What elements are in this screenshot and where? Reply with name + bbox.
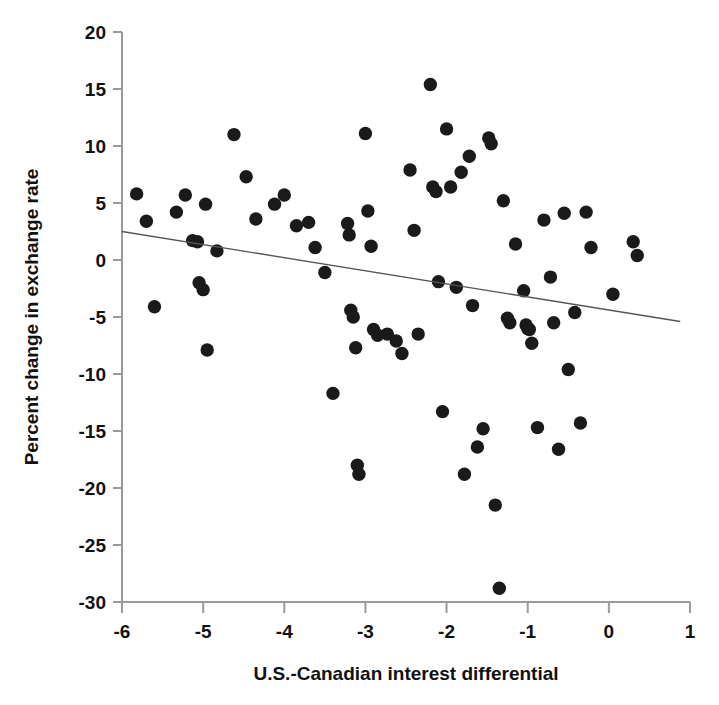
data-point [227,128,240,141]
data-point [631,249,644,262]
y-tick-label: -20 [79,478,106,499]
data-point [458,468,471,481]
data-point [290,219,303,232]
x-axis-tick-labels: -6-5-4-3-2-101 [114,621,696,642]
axes [122,32,690,602]
data-point [476,422,489,435]
data-point [403,163,416,176]
data-point [349,341,362,354]
data-point [191,235,204,248]
data-point [489,498,502,511]
data-point [395,347,408,360]
data-point [140,215,153,228]
x-tick-label: -4 [276,621,293,642]
data-point [359,127,372,140]
data-point [179,188,192,201]
data-point [390,334,403,347]
data-point [497,194,510,207]
data-point [558,207,571,220]
x-tick-label: -6 [114,621,131,642]
data-point [170,205,183,218]
data-point [352,468,365,481]
data-point [544,270,557,283]
data-point [471,440,484,453]
data-point [493,582,506,595]
data-point [568,306,581,319]
data-point [579,205,592,218]
x-tick-label: 1 [685,621,696,642]
scatter-plot-figure: -6-5-4-3-2-101 -30-25-20-15-10-505101520… [0,0,719,705]
data-point [574,416,587,429]
data-point [525,337,538,350]
data-point [627,235,640,248]
y-axis-tick-labels: -30-25-20-15-10-505101520 [79,22,107,613]
tick-marks [113,32,690,613]
data-point [364,240,377,253]
x-tick-label: -2 [438,621,455,642]
data-point [343,228,356,241]
y-tick-label: -25 [79,535,107,556]
data-point [407,224,420,237]
data-point [424,78,437,91]
data-point [444,180,457,193]
y-tick-label: 20 [85,22,106,43]
data-point [466,299,479,312]
data-point [239,170,252,183]
data-point [547,316,560,329]
data-point [531,421,544,434]
data-point [341,217,354,230]
data-point [268,197,281,210]
data-point [347,310,360,323]
data-point [523,323,536,336]
y-tick-label: -5 [89,307,106,328]
data-point [326,387,339,400]
data-point [201,343,214,356]
y-tick-label: -15 [79,421,107,442]
x-tick-label: -5 [195,621,212,642]
data-point [411,327,424,340]
data-point [440,122,453,135]
data-point [485,137,498,150]
x-tick-label: -3 [357,621,374,642]
chart-canvas: -6-5-4-3-2-101 -30-25-20-15-10-505101520… [0,0,719,705]
x-axis-title: U.S.-Canadian interest differential [253,663,558,684]
data-point [308,241,321,254]
data-point [537,213,550,226]
x-tick-label: 0 [604,621,615,642]
data-point [429,185,442,198]
y-tick-label: 5 [95,193,106,214]
data-point [584,241,597,254]
data-point [436,405,449,418]
y-tick-label: 15 [85,79,107,100]
y-tick-label: 10 [85,136,106,157]
data-point [148,300,161,313]
data-point [199,197,212,210]
y-axis-title: Percent change in exchange rate [21,169,42,466]
data-point [509,237,522,250]
data-points [130,78,644,595]
data-point [302,216,315,229]
data-point [454,166,467,179]
data-point [450,281,463,294]
data-point [196,283,209,296]
y-tick-label: 0 [95,250,106,271]
y-tick-label: -10 [79,364,106,385]
data-point [278,188,291,201]
data-point [463,150,476,163]
data-point [503,316,516,329]
data-point [130,187,143,200]
data-point [606,288,619,301]
data-point [562,363,575,376]
data-point [552,443,565,456]
data-point [361,204,374,217]
y-tick-label: -30 [79,592,106,613]
data-point [318,266,331,279]
x-tick-label: -1 [519,621,536,642]
data-point [249,212,262,225]
